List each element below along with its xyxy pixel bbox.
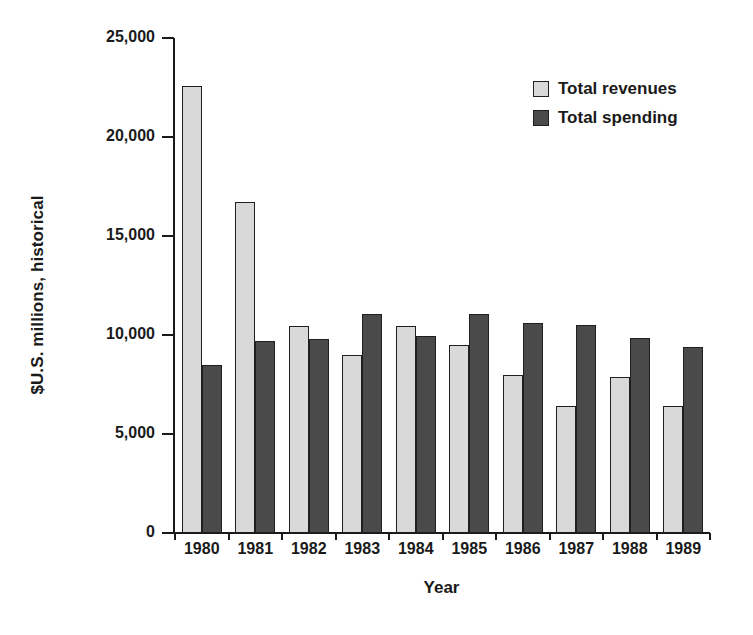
x-tick-label: 1988	[603, 540, 657, 558]
bar-chart: $U.S. millions, historical 05,00010,0001…	[0, 0, 753, 635]
bar	[182, 86, 202, 533]
bar	[630, 338, 650, 533]
x-tick-mark	[335, 533, 337, 540]
bar	[362, 314, 382, 533]
x-tick-label: 1983	[335, 540, 389, 558]
x-tick-label: 1985	[442, 540, 496, 558]
y-tick-label: 20,000	[0, 127, 155, 145]
bar	[523, 323, 543, 533]
y-tick-label: 0	[0, 523, 155, 541]
y-tick-mark	[162, 136, 174, 138]
bar	[309, 339, 329, 533]
y-tick-label: 5,000	[0, 424, 155, 442]
bar	[576, 325, 596, 533]
x-tick-label: 1982	[282, 540, 336, 558]
legend-item: Total revenues	[533, 78, 678, 100]
x-tick-mark	[656, 533, 658, 540]
y-tick-label: 10,000	[0, 325, 155, 343]
bar	[255, 341, 275, 533]
x-tick-mark	[549, 533, 551, 540]
bar	[235, 202, 255, 533]
x-axis-title: Year	[173, 578, 710, 598]
bar	[503, 375, 523, 533]
x-tick-mark	[281, 533, 283, 540]
x-tick-mark	[709, 533, 711, 540]
legend-swatch-icon	[533, 81, 549, 97]
y-tick-mark	[162, 532, 174, 534]
bar	[449, 345, 469, 533]
y-tick-mark	[162, 235, 174, 237]
x-tick-mark	[602, 533, 604, 540]
y-tick-mark	[162, 433, 174, 435]
x-tick-mark	[174, 533, 176, 540]
bar	[469, 314, 489, 533]
bar	[289, 326, 309, 533]
x-tick-mark	[442, 533, 444, 540]
legend-label: Total spending	[558, 108, 678, 128]
x-tick-mark	[495, 533, 497, 540]
bar	[202, 365, 222, 533]
bar	[342, 355, 362, 533]
x-tick-label: 1981	[228, 540, 282, 558]
x-tick-label: 1980	[175, 540, 229, 558]
x-tick-label: 1984	[389, 540, 443, 558]
bar	[610, 377, 630, 533]
legend-item: Total spending	[533, 107, 678, 129]
legend-label: Total revenues	[558, 79, 677, 99]
bar	[663, 406, 683, 533]
y-tick-label: 25,000	[0, 28, 155, 46]
bar	[396, 326, 416, 533]
x-tick-mark	[228, 533, 230, 540]
bar	[683, 347, 703, 533]
x-tick-mark	[388, 533, 390, 540]
x-tick-label: 1987	[549, 540, 603, 558]
y-axis-line	[173, 38, 175, 534]
y-tick-mark	[162, 37, 174, 39]
x-tick-label: 1989	[656, 540, 710, 558]
x-tick-label: 1986	[496, 540, 550, 558]
bar	[556, 406, 576, 533]
y-tick-label: 15,000	[0, 226, 155, 244]
y-tick-mark	[162, 334, 174, 336]
chart-legend: Total revenuesTotal spending	[533, 78, 678, 136]
y-axis-title: $U.S. millions, historical	[28, 145, 48, 445]
bar	[416, 336, 436, 533]
legend-swatch-icon	[533, 110, 549, 126]
